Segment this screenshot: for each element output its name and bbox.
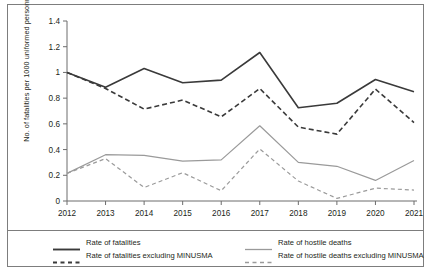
x-axis-tick-label: 2019 bbox=[328, 209, 347, 218]
y-axis-tick-label: 0.8 bbox=[49, 94, 61, 103]
series-line-rate-of-fatalities-excluding-minusma bbox=[67, 72, 414, 134]
legend-item-rate-of-fatalities-excluding-minusma: Rate of fatalities excluding MINUSMA bbox=[8, 249, 220, 262]
series-line-rate-of-hostile-deaths-excluding-minusma bbox=[67, 149, 414, 199]
y-axis-tick-label: 0.6 bbox=[49, 120, 61, 129]
line-chart-svg: 00.20.40.60.811.21.420122013201420152016… bbox=[0, 0, 431, 230]
y-axis-tick-label: 0.4 bbox=[49, 146, 61, 155]
legend-swatch-solid-light bbox=[245, 239, 272, 246]
legend-label: Rate of fatalities excluding MINUSMA bbox=[86, 251, 213, 260]
x-axis-tick-label: 2017 bbox=[251, 209, 270, 218]
legend-row-1: Rate of fatalities Rate of hostile death… bbox=[8, 236, 423, 249]
legend-label: Rate of fatalities bbox=[86, 238, 140, 247]
x-axis-tick-label: 2012 bbox=[58, 209, 77, 218]
y-axis-tick-label: 1.2 bbox=[49, 43, 61, 52]
legend-swatch-solid-dark bbox=[53, 239, 80, 246]
chart-legend: Rate of fatalities Rate of hostile death… bbox=[8, 231, 423, 267]
x-axis-tick-label: 2020 bbox=[366, 209, 385, 218]
y-axis-tick-label: 0.2 bbox=[49, 171, 61, 180]
legend-swatch-dashed-light bbox=[245, 252, 272, 259]
series-line-rate-of-fatalities bbox=[67, 53, 414, 108]
legend-item-rate-of-hostile-deaths-excluding-minusma: Rate of hostile deaths excluding MINUSMA bbox=[220, 249, 423, 262]
plot-area: No. of fatalities per 1000 uniformed per… bbox=[0, 0, 431, 230]
figure-container: No. of fatalities per 1000 uniformed per… bbox=[0, 0, 431, 273]
y-axis-tick-label: 0 bbox=[55, 197, 60, 206]
legend-label: Rate of hostile deaths excluding MINUSMA bbox=[278, 251, 424, 260]
x-axis-tick-label: 2014 bbox=[135, 209, 154, 218]
y-axis-tick-label: 1.4 bbox=[49, 17, 61, 26]
y-axis-tick-label: 1 bbox=[55, 68, 60, 77]
legend-label: Rate of hostile deaths bbox=[278, 238, 351, 247]
legend-swatch-dashed-dark bbox=[53, 252, 80, 259]
legend-item-rate-of-hostile-deaths: Rate of hostile deaths bbox=[220, 236, 423, 249]
x-axis-tick-label: 2015 bbox=[174, 209, 193, 218]
series-line-rate-of-hostile-deaths bbox=[67, 126, 414, 181]
x-axis-tick-label: 2013 bbox=[96, 209, 115, 218]
x-axis-tick-label: 2016 bbox=[212, 209, 231, 218]
legend-item-rate-of-fatalities: Rate of fatalities bbox=[8, 236, 220, 249]
x-axis-tick-label: 2021 bbox=[405, 209, 424, 218]
legend-row-2: Rate of fatalities excluding MINUSMA Rat… bbox=[8, 249, 423, 262]
x-axis-tick-label: 2018 bbox=[289, 209, 308, 218]
